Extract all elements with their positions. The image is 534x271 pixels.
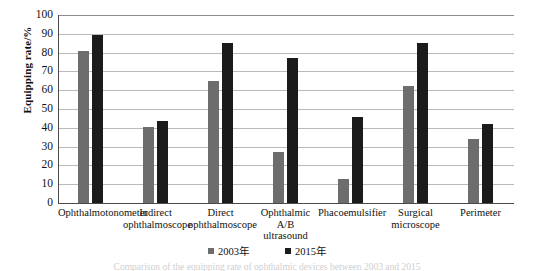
legend-item[interactable]: 2015年 (285, 243, 326, 258)
bar (482, 124, 493, 203)
bar-group (273, 15, 298, 203)
bar-group (403, 15, 428, 203)
y-axis-tick-labels: 1009080706050403020100 (0, 15, 53, 203)
legend-swatch-icon (208, 248, 214, 254)
bar-group (208, 15, 233, 203)
figure-caption: Comparison of the equipping rate of opht… (0, 262, 534, 271)
bar (417, 43, 428, 203)
x-axis-label: Surgical microscope (383, 207, 448, 230)
x-axis-label: Ophthalmic A/B ultrasound (253, 207, 318, 242)
bar (157, 121, 168, 203)
y-tick-label: 60 (1, 84, 53, 96)
legend-label: 2015年 (295, 243, 326, 258)
y-tick-label: 10 (1, 178, 53, 190)
bar (78, 51, 89, 203)
y-tick-label: 40 (1, 122, 53, 134)
y-tick-label: 80 (1, 47, 53, 59)
x-axis-label: Perimeter (448, 207, 513, 219)
x-axis-label: Phacoemulsifier (318, 207, 383, 219)
legend-item[interactable]: 2003年 (208, 243, 249, 258)
bar (403, 86, 414, 203)
chart-legend: 2003年2015年 (0, 243, 534, 258)
bar-chart-figure: Equipping rate/% 1009080706050403020100 … (0, 0, 534, 271)
bar (468, 139, 479, 203)
y-tick-label: 20 (1, 159, 53, 171)
bar (92, 35, 103, 203)
legend-swatch-icon (285, 248, 291, 254)
bar-group (143, 15, 168, 203)
bar (287, 58, 298, 203)
bar (352, 117, 363, 203)
x-axis-label: Ophthalmotonometer (58, 207, 123, 219)
bar-group (468, 15, 493, 203)
y-tick-label: 100 (1, 9, 53, 21)
bar (143, 127, 154, 203)
bar-group (338, 15, 363, 203)
y-tick-label: 0 (1, 197, 53, 209)
x-axis-label: Indirect ophthalmoscope (123, 207, 188, 230)
y-tick-label: 30 (1, 141, 53, 153)
bar (338, 179, 349, 203)
x-axis-label: Direct ophthalmoscope (188, 207, 253, 230)
y-tick-label: 50 (1, 103, 53, 115)
legend-label: 2003年 (218, 243, 249, 258)
bar (222, 43, 233, 203)
bar (273, 152, 284, 203)
y-tick-label: 90 (1, 28, 53, 40)
bars-layer (58, 15, 513, 203)
y-tick-label: 70 (1, 65, 53, 77)
bar (208, 81, 219, 203)
bar-group (78, 15, 103, 203)
